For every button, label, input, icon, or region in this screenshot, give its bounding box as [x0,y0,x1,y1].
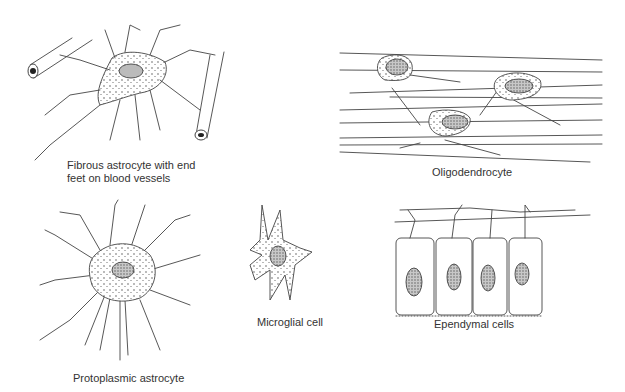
glial-cells-illustration [0,0,625,392]
oligodendrocyte-drawing [340,53,602,162]
fibrous-astrocyte-label: Fibrous astrocyte with end feet on blood… [67,159,195,185]
oligodendrocyte-label: Oligodendrocyte [432,166,512,179]
fibrous-astrocyte-drawing [28,25,224,160]
microglial-cell-label: Microglial cell [257,316,323,329]
microglial-cell-drawing [250,205,312,300]
ependymal-cells-label: Ependymal cells [434,318,514,331]
protoplasmic-astrocyte-drawing [40,200,200,360]
ependymal-cells-drawing [395,205,590,316]
protoplasmic-astrocyte-label: Protoplasmic astrocyte [73,372,184,385]
